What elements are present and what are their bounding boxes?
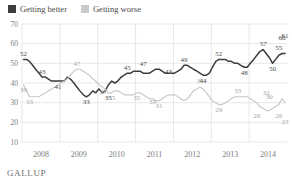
legend-label-getting-worse: Getting worse <box>93 5 141 14</box>
legend-item-getting-worse[interactable]: Getting worse <box>81 5 141 14</box>
x-axis-labels: 2008200920102011201220132014 <box>0 150 292 164</box>
point-label-getting-worse-38: 38 <box>99 88 107 96</box>
gallup-brand: GALLUP <box>7 168 46 178</box>
x-tick-label-2008: 2008 <box>33 150 49 159</box>
point-label-getting-worse-29: 29 <box>215 106 223 114</box>
x-tick-label-2009: 2009 <box>71 150 87 159</box>
point-label-getting-worse-31: 31 <box>156 102 164 110</box>
point-label-getting-worse-26: 26 <box>253 112 261 120</box>
point-label-getting-better-49: 49 <box>181 56 189 64</box>
point-label-getting-better-45: 45 <box>124 64 132 72</box>
legend-item-getting-better[interactable]: Getting better <box>8 5 67 14</box>
legend-label-getting-better: Getting better <box>20 5 67 14</box>
point-label-getting-better-33: 33 <box>83 98 91 106</box>
x-tick-label-2014: 2014 <box>260 150 276 159</box>
point-label-getting-worse-30: 30 <box>266 93 274 101</box>
point-label-getting-better-52: 52 <box>20 50 28 58</box>
point-label-getting-worse-23: 23 <box>282 118 290 126</box>
x-tick-label-2013: 2013 <box>222 150 238 159</box>
y-tick-label-60: 60 <box>11 39 19 48</box>
x-tick-label-2012: 2012 <box>184 150 200 159</box>
data-point-labels: 5243413335454743494452485750556061393347… <box>20 32 289 126</box>
y-tick-label-70: 70 <box>11 20 19 29</box>
point-label-getting-better-48: 48 <box>241 69 249 77</box>
y-tick-label-20: 20 <box>11 118 19 127</box>
point-label-getting-worse-35: 35 <box>133 94 141 102</box>
y-tick-label-10: 10 <box>11 138 19 147</box>
y-tick-label-30: 30 <box>11 98 19 107</box>
point-label-getting-better-52: 52 <box>215 50 223 58</box>
point-label-getting-better-43: 43 <box>165 68 173 76</box>
y-tick-labels: 10203040506070 <box>11 20 19 147</box>
point-label-getting-better-57: 57 <box>260 40 268 48</box>
point-label-getting-worse-38: 38 <box>196 77 204 85</box>
y-tick-label-50: 50 <box>11 59 19 68</box>
y-tick-label-40: 40 <box>11 79 19 88</box>
point-label-getting-worse-47: 47 <box>73 60 81 68</box>
chart-legend: Getting better Getting worse <box>8 2 141 16</box>
point-label-getting-better-61: 61 <box>282 32 290 40</box>
legend-swatch-getting-better <box>8 5 16 13</box>
x-tick-label-2010: 2010 <box>109 150 125 159</box>
gallup-line-chart: Getting better Getting worse 10203040506… <box>0 0 292 184</box>
point-label-getting-worse-35: 35 <box>108 94 116 102</box>
x-tick-label-2011: 2011 <box>147 150 163 159</box>
point-label-getting-worse-33: 33 <box>26 98 34 106</box>
point-label-getting-worse-39: 39 <box>20 86 28 94</box>
point-label-getting-better-50: 50 <box>269 65 277 73</box>
plot-area: 10203040506070 5243413335454743494452485… <box>0 16 292 152</box>
point-label-getting-worse-33: 33 <box>234 87 242 95</box>
point-label-getting-better-43: 43 <box>39 68 47 76</box>
point-label-getting-better-41: 41 <box>54 83 62 91</box>
point-label-getting-better-47: 47 <box>140 60 148 68</box>
plot-svg: 10203040506070 5243413335454743494452485… <box>0 16 292 152</box>
legend-swatch-getting-worse <box>81 5 89 13</box>
point-label-getting-better-55: 55 <box>275 44 283 52</box>
